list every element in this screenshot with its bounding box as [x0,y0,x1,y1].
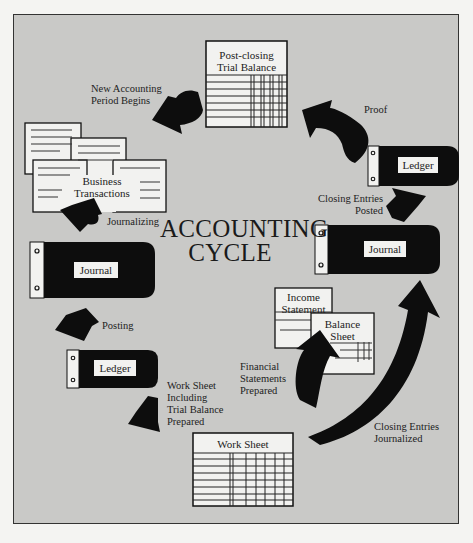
step-financial-statements: Financial Statements Prepared [240,361,286,397]
arrow-work-sheet [128,396,160,432]
journal-left-label: Journal [74,262,118,278]
step-journalizing: Journalizing [107,216,159,228]
step-work-sheet-prepared: Work Sheet Including Trial Balance Prepa… [167,380,223,428]
work-sheet-label: Work Sheet [193,438,293,450]
arrow-proof [302,100,368,163]
step-proof: Proof [364,104,387,116]
arrow-closing-posted [386,188,426,222]
step-posting: Posting [102,320,134,332]
balance-sheet-label: Balance Sheet [311,318,374,342]
step-new-period: New Accounting Period Begins [91,83,162,107]
diagram-graphics [0,0,473,543]
ledger-left-label: Ledger [94,360,136,376]
step-closing-journalized: Closing Entries Journalized [374,421,439,445]
ledger-right-label: Ledger [398,157,438,173]
journal-right-label: Journal [364,241,406,257]
step-closing-posted: Closing Entries Posted [318,193,383,217]
post-closing-trial-balance-label: Post-closing Trial Balance [206,49,287,73]
diagram-title: ACCOUNTING CYCLE [160,217,300,265]
business-transactions-label: Business Transactions [72,175,132,199]
arrow-posting [55,308,99,341]
income-statement-label: Income Statement [275,291,332,315]
